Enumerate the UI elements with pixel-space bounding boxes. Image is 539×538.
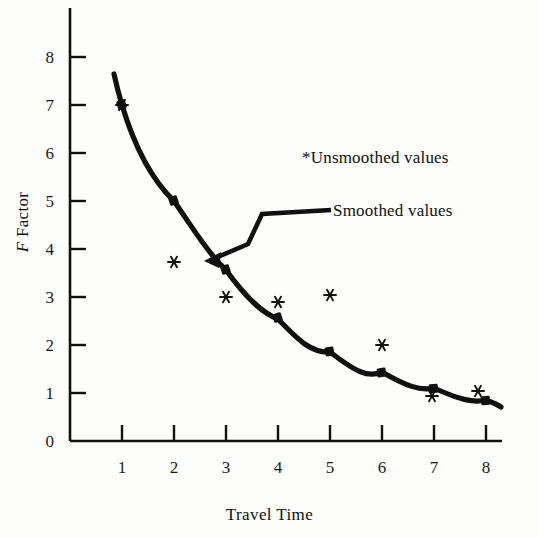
y-tick-label-0: 0 [32,433,54,450]
y-tick-label-5: 5 [32,193,54,210]
smoothed-point-markers [116,99,491,406]
x-tick-label-1: 1 [111,459,133,476]
x-tick-label-3: 3 [215,459,237,476]
y-tick-label-7: 7 [32,97,54,114]
unsmoothed-point-markers [116,100,484,401]
smoothed-values-curve [114,74,501,407]
smoothed-values-legend-label: Smoothed values [333,201,453,221]
y-axis-title-symbol: F [13,242,32,253]
x-tick-label-2: 2 [163,459,185,476]
y-tick-label-1: 1 [32,385,54,402]
x-tick-label-6: 6 [371,459,393,476]
x-axis-title: Travel Time [0,505,539,525]
x-tick-label-5: 5 [319,459,341,476]
y-axis-title-word: Factor [13,192,32,237]
y-tick-label-2: 2 [32,337,54,354]
x-tick-label-7: 7 [423,459,445,476]
y-tick-label-4: 4 [32,241,54,258]
y-tick-label-3: 3 [32,289,54,306]
x-tick-label-8: 8 [475,459,497,476]
y-axis-title: F Factor [13,167,33,277]
y-tick-label-6: 6 [32,145,54,162]
y-tick-label-8: 8 [32,49,54,66]
unsmoothed-values-legend-label: *Unsmoothed values [302,148,449,168]
smoothed-leader-line [213,210,331,259]
x-axis-ticks [122,425,486,441]
chart-figure: 0 1 2 3 4 5 6 7 8 1 2 3 4 5 6 7 8 Travel… [0,0,539,538]
chart-plot-area [0,0,539,538]
x-tick-label-4: 4 [267,459,289,476]
y-axis-ticks [70,57,86,393]
